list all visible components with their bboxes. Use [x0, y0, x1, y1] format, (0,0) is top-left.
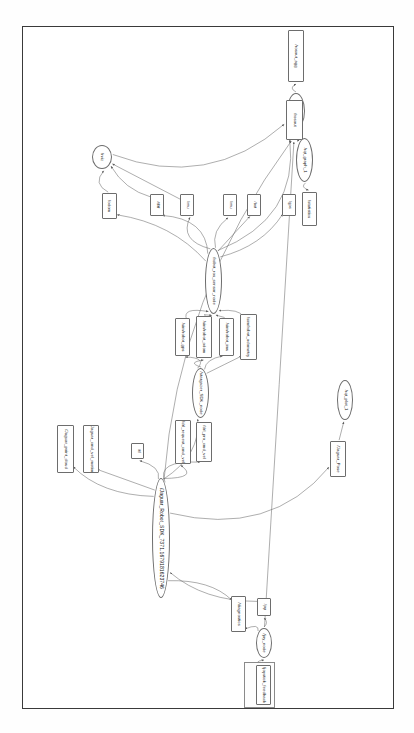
- graph-node-imu2[interactable]: /imu: [223, 194, 237, 216]
- graph-node-jaguar-cmd-vel[interactable]: /Jaguar_cmd_vel_motion: [83, 425, 99, 473]
- graph-node-label: /bat: [252, 202, 256, 209]
- graph-node-label: /rqt_graph_1: [302, 148, 306, 173]
- graph-node-drl-pro-cmd-vel[interactable]: /drl_pro_cmd_vel: [196, 422, 212, 462]
- graph-node-diagnostics[interactable]: /diagnostics: [231, 596, 246, 632]
- graph-edge: [163, 462, 199, 482]
- graph-node-label: /robot_ros_sensor_node: [211, 257, 215, 305]
- graph-edges-layer: [0, 0, 414, 733]
- graph-edge: [112, 164, 180, 199]
- graph-node-label: /Jaguar_point_cloud: [63, 429, 67, 469]
- graph-node-jaguar-pose[interactable]: /Jaguar_Pose: [330, 441, 346, 477]
- graph-node-label: /imu: [228, 201, 232, 209]
- graph-node-label: /rosout_agg: [294, 44, 298, 67]
- graph-canvas: /rosout_agg/rosout/rosout/rqt_graph_1/st…: [0, 0, 414, 733]
- graph-node-label: /rviz: [100, 153, 104, 161]
- graph-node-sim-robot-odometry[interactable]: /sim/robot_odometry: [240, 314, 257, 360]
- graph-edge: [140, 461, 159, 479]
- graph-node-label: /Jaguar_Robot_SDK_7371.1679181623746: [159, 488, 164, 589]
- graph-node-label: /tf/tf: [155, 202, 159, 209]
- graph-node-joystick-feedback[interactable]: /joystick_feedback: [256, 665, 271, 705]
- graph-node-tf-small[interactable]: /tf: [131, 443, 144, 459]
- graph-node-bat[interactable]: /bat: [247, 194, 261, 216]
- graph-node-label: /stargazer_SDK_node: [198, 371, 202, 414]
- graph-node-label: /joy: [262, 604, 266, 610]
- graph-node-jaguar-point-cloud[interactable]: /Jaguar_point_cloud: [57, 425, 74, 473]
- graph-edge: [168, 581, 232, 600]
- graph-edge: [162, 215, 207, 253]
- graph-node-label: /diagnostics: [236, 602, 240, 625]
- graph-node-label: /rqt_plot_1: [343, 390, 347, 411]
- graph-edge: [185, 357, 200, 368]
- graph-node-joy-box[interactable]: /joy: [257, 598, 271, 616]
- graph-edge: [205, 356, 223, 369]
- graph-node-label: /tf: [136, 449, 140, 452]
- graph-edge: [264, 618, 267, 627]
- graph-edge: [97, 469, 155, 490]
- graph-node-label: /gps: [287, 201, 291, 209]
- graph-node-label: /Jaguar_cmd_vel_motion: [89, 425, 93, 473]
- graph-node-rosout-agg[interactable]: /rosout_agg: [288, 30, 304, 82]
- graph-node-label: /drl_request_cmd_vel: [181, 421, 185, 463]
- screenshot-root: /rosout_agg/rosout/rosout/rqt_graph_1/st…: [0, 0, 414, 733]
- graph-node-label: /odom: [107, 200, 111, 212]
- graph-edge: [111, 166, 151, 197]
- graph-edge: [117, 215, 206, 261]
- graph-edge: [220, 214, 283, 257]
- graph-edge: [163, 465, 187, 478]
- graph-node-odom[interactable]: /odom: [102, 193, 117, 219]
- graph-node-label: /joy_node: [262, 633, 266, 652]
- graph-edge: [245, 626, 258, 631]
- graph-node-jaguar-robot-sdk[interactable]: /Jaguar_Robot_SDK_7371.1679181623746: [152, 478, 170, 598]
- graph-node-robot-ros-sensor-node[interactable]: /robot_ros_sensor_node: [205, 248, 222, 314]
- graph-edge: [218, 217, 250, 252]
- graph-node-rviz[interactable]: /rviz: [92, 145, 112, 169]
- graph-node-drl-request-cmd-vel[interactable]: /drl_request_cmd_vel: [175, 420, 191, 464]
- graph-node-label: /sim/robot_odometry: [246, 317, 250, 357]
- graph-node-label: /drl_pro_cmd_vel: [202, 425, 206, 459]
- graph-node-rqt-graph-1[interactable]: /rqt_graph_1: [296, 138, 313, 182]
- graph-node-gps[interactable]: /gps: [282, 194, 296, 216]
- graph-edge: [194, 360, 203, 367]
- graph-node-stargazer-sdk[interactable]: /stargazer_SDK_node: [192, 368, 209, 418]
- graph-node-label: /joystick_feedback: [261, 667, 265, 703]
- graph-node-label: /rosout: [292, 113, 296, 127]
- graph-node-tf-tf[interactable]: /tf/tf: [150, 194, 164, 216]
- graph-node-label: /sim/robot_gps: [180, 323, 184, 352]
- graph-node-sim-robot-odom[interactable]: /sim/robot_odom: [196, 316, 212, 358]
- graph-node-label: /Jaguar_Pose: [336, 445, 340, 472]
- graph-node-label: /sim/robot_imu: [224, 323, 228, 352]
- graph-node-sim-robot-gps[interactable]: /sim/robot_gps: [175, 318, 190, 356]
- graph-edge: [113, 124, 284, 167]
- graph-edge: [215, 218, 228, 248]
- graph-node-joy-node[interactable]: /joy_node: [256, 628, 272, 658]
- graph-node-sim-robot-imu[interactable]: /sim/robot_imu: [219, 318, 234, 356]
- graph-edge: [99, 171, 108, 192]
- graph-edge: [303, 183, 308, 190]
- graph-edge: [292, 84, 296, 92]
- graph-edge: [170, 467, 329, 519]
- graph-node-label: /statistics: [307, 200, 311, 218]
- graph-edge: [187, 217, 210, 249]
- graph-node-label: /sim/robot_odom: [202, 321, 206, 354]
- graph-node-label: /imu: [185, 201, 189, 209]
- graph-edge: [207, 356, 242, 373]
- graph-edge: [339, 422, 344, 440]
- graph-node-imu-top[interactable]: /imu: [180, 194, 194, 216]
- graph-node-rqt-plot-1[interactable]: /rqt_plot_1: [337, 380, 353, 420]
- graph-node-statistics[interactable]: /statistics: [302, 192, 317, 226]
- graph-node-rosout[interactable]: /rosout: [286, 100, 303, 140]
